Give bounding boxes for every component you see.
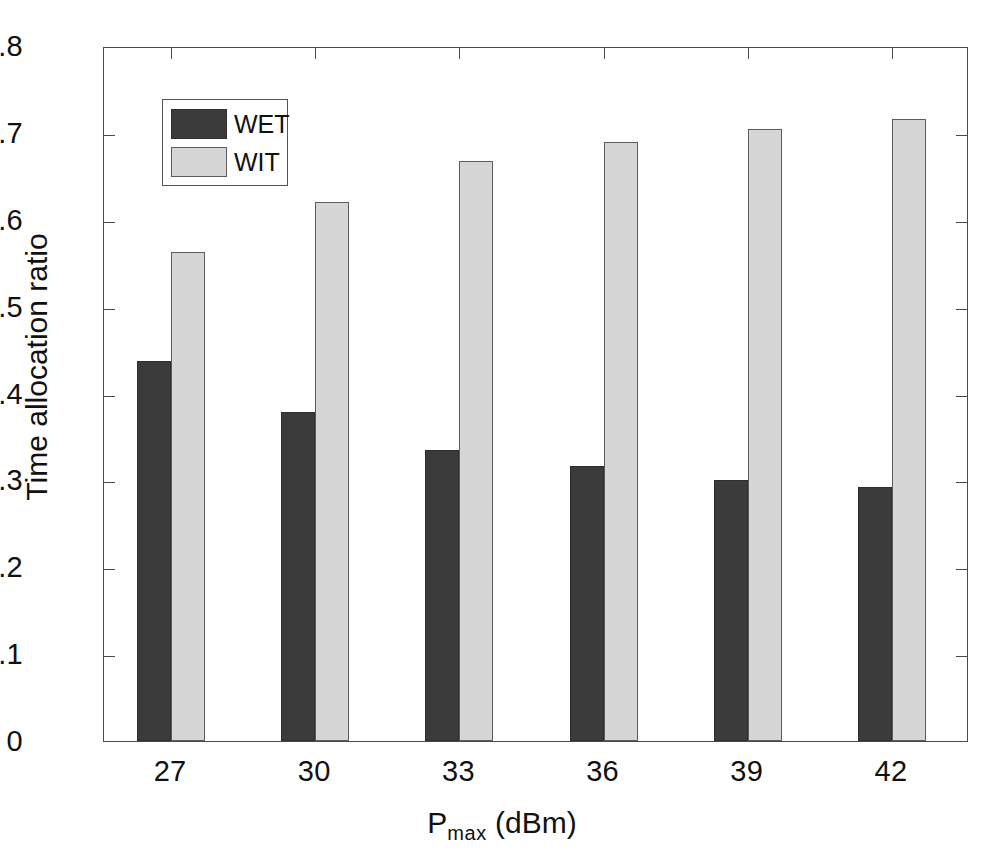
y-axis-tick bbox=[956, 309, 967, 310]
y-axis-tick bbox=[104, 309, 115, 310]
x-axis-title-base: P bbox=[427, 806, 447, 839]
figure-bar-chart: Time allocation ratio Pmax (dBm) WET WIT… bbox=[0, 0, 1004, 861]
plot-area: WET WIT bbox=[103, 47, 968, 742]
bar-wit-42 bbox=[892, 119, 926, 741]
legend: WET WIT bbox=[162, 99, 288, 186]
x-axis-tick bbox=[892, 48, 893, 59]
y-axis-tick-label: 0.6 bbox=[0, 206, 23, 235]
y-axis-tick bbox=[956, 222, 967, 223]
y-axis-tick-label: 0.5 bbox=[0, 293, 23, 322]
x-axis-tick-label: 39 bbox=[707, 757, 787, 786]
x-axis-title-subscript: max bbox=[447, 822, 486, 844]
legend-swatch-wit bbox=[171, 147, 227, 177]
y-axis-tick bbox=[956, 482, 967, 483]
x-axis-tick bbox=[748, 48, 749, 59]
bar-wet-39 bbox=[714, 480, 748, 741]
y-axis-tick bbox=[104, 135, 115, 136]
legend-label-wet: WET bbox=[234, 112, 290, 137]
legend-item-wit: WIT bbox=[171, 147, 280, 177]
x-axis-title-unit: (dBm) bbox=[487, 806, 577, 839]
bar-wit-30 bbox=[315, 202, 349, 741]
bar-wet-30 bbox=[281, 412, 315, 741]
x-axis-tick bbox=[315, 48, 316, 59]
y-axis-tick-label: 0.2 bbox=[0, 553, 23, 582]
legend-label-wit: WIT bbox=[234, 150, 280, 175]
y-axis-tick bbox=[956, 656, 967, 657]
bar-wit-39 bbox=[748, 129, 782, 741]
y-axis-tick-label: 0.4 bbox=[0, 380, 23, 409]
bar-wet-33 bbox=[425, 450, 459, 741]
y-axis-tick-label: 0.1 bbox=[0, 640, 23, 669]
y-axis-tick-label: 0.3 bbox=[0, 466, 23, 495]
x-axis-tick-label: 30 bbox=[274, 757, 354, 786]
x-axis-tick-label: 27 bbox=[130, 757, 210, 786]
y-axis-tick bbox=[104, 656, 115, 657]
bar-wet-42 bbox=[858, 487, 892, 741]
x-axis-tick bbox=[459, 48, 460, 59]
x-axis-tick bbox=[604, 48, 605, 59]
bar-wet-27 bbox=[137, 361, 171, 741]
y-axis-tick bbox=[104, 482, 115, 483]
y-axis-tick-label: 0 bbox=[0, 727, 23, 756]
y-axis-tick bbox=[956, 396, 967, 397]
y-axis-tick bbox=[956, 569, 967, 570]
legend-swatch-wet bbox=[171, 109, 227, 139]
legend-item-wet: WET bbox=[171, 109, 290, 139]
x-axis-tick bbox=[171, 48, 172, 59]
y-axis-tick bbox=[104, 222, 115, 223]
y-axis-tick bbox=[956, 135, 967, 136]
bar-wit-33 bbox=[459, 161, 493, 741]
bar-wit-36 bbox=[604, 142, 638, 741]
x-axis-tick-label: 33 bbox=[418, 757, 498, 786]
x-axis-title: Pmax (dBm) bbox=[0, 806, 1004, 845]
y-axis-title: Time allocation ratio bbox=[20, 117, 54, 617]
x-axis-tick-label: 42 bbox=[851, 757, 931, 786]
bar-wet-36 bbox=[570, 466, 604, 741]
y-axis-tick bbox=[104, 569, 115, 570]
y-axis-tick bbox=[104, 396, 115, 397]
y-axis-tick-label: 0.7 bbox=[0, 119, 23, 148]
bar-wit-27 bbox=[171, 252, 205, 741]
x-axis-tick-label: 36 bbox=[563, 757, 643, 786]
y-axis-tick-label: 0.8 bbox=[0, 32, 23, 61]
